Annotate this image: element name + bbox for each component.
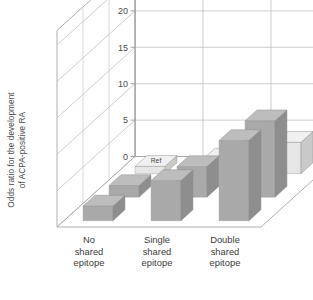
category-label-container: NosharedepitopeSinglesharedepitopeDouble… xyxy=(74,234,241,268)
bar-face-front xyxy=(219,141,249,221)
y-tick-label: 10 xyxy=(118,79,128,89)
category-label-2: Doublesharedepitope xyxy=(210,234,241,268)
bar-back-2 xyxy=(219,130,261,221)
y-tick-label: 20 xyxy=(118,6,128,16)
category-label-1: Singlesharedepitope xyxy=(142,234,173,268)
category-label-line: Single xyxy=(144,234,170,245)
chart-3d-bar-odds-ratio: Ref 0510152025 NosharedepitopeSingleshar… xyxy=(0,0,313,300)
category-label-0: Nosharedepitope xyxy=(74,234,105,268)
y-tick-label: 0 xyxy=(123,152,128,162)
category-label-line: epitope xyxy=(74,257,105,268)
bar-back-1 xyxy=(151,170,193,221)
y-axis-title-line-1: Odds ratio for the development xyxy=(7,92,16,208)
category-label-line: shared xyxy=(75,246,104,257)
bar-face-front xyxy=(83,206,113,221)
bar-face-side xyxy=(249,130,261,221)
bar-face-front xyxy=(151,181,181,221)
bar-face-side xyxy=(275,110,287,197)
chart-canvas: Ref 0510152025 NosharedepitopeSingleshar… xyxy=(0,0,313,300)
category-label-line: shared xyxy=(143,246,172,257)
y-axis-title: Odds ratio for the development of ACPA-p… xyxy=(7,92,27,208)
category-label-line: No xyxy=(83,234,95,245)
category-label-line: Double xyxy=(210,234,240,245)
y-tick-label: 5 xyxy=(123,115,128,125)
category-label-line: shared xyxy=(211,246,240,257)
y-axis-title-line-2: of ACPA-positive RA xyxy=(18,111,27,188)
category-label-line: epitope xyxy=(142,257,173,268)
y-tick-label: 15 xyxy=(118,43,128,53)
annotation-container: Ref xyxy=(151,157,162,164)
reference-annotation: Ref xyxy=(151,157,162,164)
category-label-line: epitope xyxy=(210,257,241,268)
